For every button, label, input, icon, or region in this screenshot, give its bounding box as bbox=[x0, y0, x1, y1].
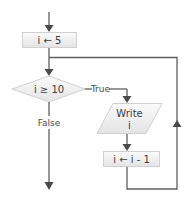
decrement-process-box: i ← i - 1 bbox=[104, 152, 160, 167]
init-process-label: i ← 5 bbox=[38, 35, 62, 46]
init-process-box: i ← 5 bbox=[23, 33, 77, 48]
flowchart-canvas: i ← 5 i ≥ 10 True False Write i bbox=[0, 0, 189, 200]
output-to-decrement-arrow bbox=[123, 134, 132, 151]
decision-diamond: i ≥ 10 bbox=[12, 76, 85, 102]
decision-label: i ≥ 10 bbox=[34, 84, 64, 95]
output-label-line1: Write bbox=[116, 108, 142, 119]
init-to-decision-arrow bbox=[45, 48, 54, 76]
false-branch-arrow bbox=[45, 102, 54, 190]
output-label-line2: i bbox=[128, 120, 131, 131]
output-parallelogram: Write i bbox=[97, 104, 162, 134]
decrement-process-label: i ← i - 1 bbox=[113, 154, 150, 165]
false-branch-label: False bbox=[38, 118, 61, 128]
entry-arrow bbox=[45, 12, 54, 32]
true-branch-label: True bbox=[90, 84, 111, 94]
